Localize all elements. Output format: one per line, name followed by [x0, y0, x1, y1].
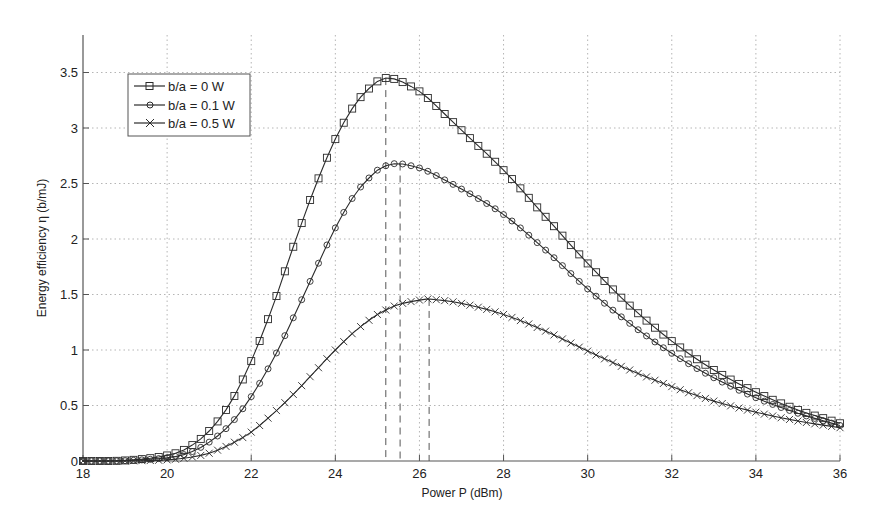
x-marker-icon: [618, 363, 625, 370]
x-marker-icon: [517, 317, 524, 324]
y-axis-label: Energy efficiency η (b/mJ): [35, 179, 49, 318]
y-tick-label: 2.5: [60, 176, 78, 191]
x-marker-icon: [239, 434, 246, 441]
x-marker-icon: [744, 407, 751, 414]
peak-markers: [386, 78, 429, 461]
y-tick-label: 1: [71, 343, 78, 358]
x-marker-icon: [256, 422, 263, 429]
x-marker-icon: [475, 304, 482, 311]
x-marker-icon: [483, 306, 490, 313]
x-marker-icon: [727, 402, 734, 409]
x-marker-icon: [231, 439, 238, 446]
series-line: [83, 299, 840, 461]
x-marker-icon: [349, 330, 356, 337]
x-marker-icon: [601, 355, 608, 362]
x-tick-label: 26: [412, 466, 426, 481]
x-tick-label: 36: [833, 466, 847, 481]
legend-label: b/a = 0 W: [168, 79, 225, 94]
x-tick-label: 28: [496, 466, 510, 481]
x-marker-icon: [214, 447, 221, 454]
x-marker-icon: [635, 370, 642, 377]
series-line: [83, 164, 840, 461]
legend-label: b/a = 0.1 W: [168, 98, 236, 113]
x-marker-icon: [307, 373, 314, 380]
x-marker-icon: [584, 348, 591, 355]
x-marker-icon: [525, 320, 532, 327]
x-marker-icon: [702, 395, 709, 402]
x-marker-icon: [694, 392, 701, 399]
x-marker-icon: [290, 391, 297, 398]
x-tick-label: 32: [665, 466, 679, 481]
x-marker-icon: [281, 399, 288, 406]
x-axis-label: Power P (dBm): [421, 486, 502, 500]
x-marker-icon: [273, 407, 280, 414]
x-marker-icon: [567, 340, 574, 347]
y-tick-label: 3: [71, 121, 78, 136]
x-marker-icon: [222, 443, 229, 450]
y-tick-label: 0: [71, 454, 78, 469]
x-tick-label: 22: [244, 466, 258, 481]
legend-label: b/a = 0.5 W: [168, 116, 236, 131]
x-tick-label: 34: [749, 466, 763, 481]
x-marker-icon: [500, 311, 507, 318]
x-marker-icon: [374, 311, 381, 318]
y-tick-label: 1.5: [60, 287, 78, 302]
x-marker-icon: [559, 335, 566, 342]
x-marker-icon: [668, 383, 675, 390]
x-tick-label: 20: [160, 466, 174, 481]
x-marker-icon: [365, 317, 372, 324]
legend: b/a = 0 W b/a = 0.1 W b/a = 0.5 W: [128, 74, 250, 136]
energy-efficiency-chart: 1820222426283032343600.511.522.533.5 Pow…: [0, 0, 877, 526]
x-marker-icon: [710, 398, 717, 405]
x-marker-icon: [593, 351, 600, 358]
x-marker-icon: [626, 366, 633, 373]
x-marker-icon: [248, 429, 255, 436]
y-tick-label: 2: [71, 232, 78, 247]
y-tick-label: 0.5: [60, 398, 78, 413]
x-marker-icon: [357, 323, 364, 330]
x-marker-icon: [677, 386, 684, 393]
series-x: [80, 295, 844, 464]
x-marker-icon: [643, 373, 650, 380]
x-marker-icon: [651, 377, 658, 384]
x-tick-label: 30: [580, 466, 594, 481]
x-marker-icon: [206, 450, 213, 457]
x-marker-icon: [542, 328, 549, 335]
x-marker-icon: [492, 308, 499, 315]
x-marker-icon: [265, 415, 272, 422]
x-marker-icon: [551, 331, 558, 338]
x-marker-icon: [534, 324, 541, 331]
x-marker-icon: [298, 382, 305, 389]
x-marker-icon: [332, 347, 339, 354]
x-marker-icon: [508, 314, 515, 321]
x-marker-icon: [609, 359, 616, 366]
x-marker-icon: [340, 338, 347, 345]
x-marker-icon: [685, 389, 692, 396]
x-tick-label: 24: [328, 466, 342, 481]
x-marker-icon: [660, 380, 667, 387]
x-marker-icon: [323, 355, 330, 362]
y-tick-label: 3.5: [60, 65, 78, 80]
x-marker-icon: [391, 303, 398, 310]
x-marker-icon: [315, 364, 322, 371]
series-circle: [80, 161, 843, 464]
